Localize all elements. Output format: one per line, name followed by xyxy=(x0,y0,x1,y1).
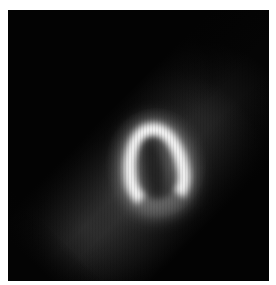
scan-image xyxy=(8,10,269,281)
scanline-texture xyxy=(8,10,269,281)
